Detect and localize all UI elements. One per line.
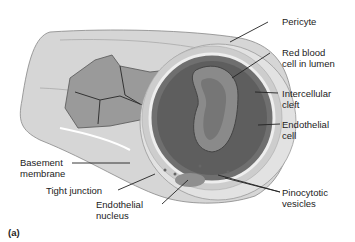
label-intercellular-cleft: Intercellularcleft <box>282 88 331 110</box>
label-basement-membrane: Basementmembrane <box>20 157 65 179</box>
label-endothelial-cell: Endothelialcell <box>282 119 329 141</box>
label-tight-junction: Tight junction <box>46 185 102 196</box>
label-pinocytotic-vesicles: Pinocytoticvesicles <box>282 187 328 209</box>
label-pericyte: Pericyte <box>282 16 316 27</box>
label-red-blood-cell: Red bloodcell in lumen <box>282 47 335 69</box>
label-endothelial-nucleus: Endothelialnucleus <box>96 199 143 221</box>
panel-label: (a) <box>8 227 20 238</box>
